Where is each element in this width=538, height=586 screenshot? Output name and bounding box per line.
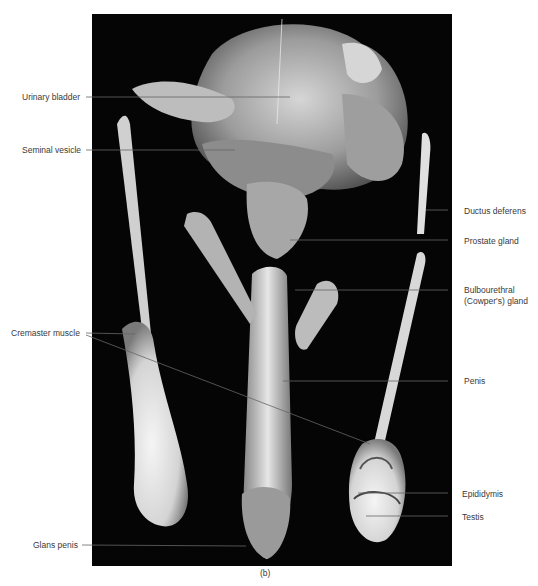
label-prostate-gland: Prostate gland: [464, 236, 519, 246]
label-glans-penis: Glans penis: [33, 540, 78, 550]
specimen-photograph: [92, 14, 452, 566]
label-urinary-bladder: Urinary bladder: [22, 92, 80, 102]
specimen-illustration: [92, 14, 452, 566]
label-cremaster-muscle: Cremaster muscle: [11, 328, 80, 338]
label-epididymis: Epididymis: [462, 489, 503, 499]
figure-caption: (b): [260, 568, 270, 578]
label-seminal-vesicle: Seminal vesicle: [22, 145, 81, 155]
label-ductus-deferens: Ductus deferens: [464, 206, 526, 216]
label-cowpers-gland: (Cowper's) gland: [464, 296, 528, 306]
label-bulbourethral-gland: Bulbourethral: [464, 285, 515, 295]
label-penis: Penis: [464, 376, 485, 386]
label-testis: Testis: [462, 512, 484, 522]
